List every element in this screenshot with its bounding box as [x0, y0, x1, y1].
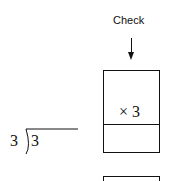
check-box: × 3 — [103, 70, 160, 153]
check-label: Check — [113, 14, 144, 26]
dividend: 3 — [31, 132, 39, 150]
division-bracket-icon — [9, 124, 79, 154]
arrow-head — [128, 52, 134, 60]
long-division: 3 3 — [9, 124, 79, 154]
answer-box — [103, 176, 160, 181]
check-divider — [104, 124, 159, 125]
multiplier-text: × 3 — [119, 103, 140, 121]
